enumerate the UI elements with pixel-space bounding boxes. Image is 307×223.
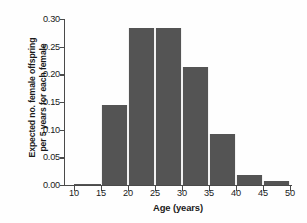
bar-25-30 (155, 28, 182, 185)
x-tick-label: 20 (115, 188, 141, 198)
y-tick-mark (60, 102, 65, 103)
x-tick-label: 35 (196, 188, 222, 198)
bar-10-15 (74, 184, 101, 185)
y-tick-label: 0.05 (32, 153, 60, 162)
y-axis-tick-labels: 0.30 0.25 0.20 0.15 0.10 0.05 0.00 (30, 0, 60, 223)
y-tick-mark (60, 74, 65, 75)
y-axis-title: Expected no. female offspring per 5 year… (0, 0, 30, 195)
y-tick-mark (60, 157, 65, 158)
y-tick-label: 0.20 (32, 70, 60, 79)
y-tick-label: 0.00 (32, 181, 60, 190)
bar-40-45 (236, 175, 263, 186)
y-tick-label: 0.30 (32, 15, 60, 24)
x-axis-title: Age (years) (64, 202, 292, 213)
bar-45-50 (263, 181, 290, 185)
bar-30-35 (182, 67, 209, 185)
y-tick-mark (60, 19, 65, 20)
x-tick-label: 25 (142, 188, 168, 198)
figure: Expected no. female offspring per 5 year… (0, 0, 307, 223)
x-tick-label: 30 (169, 188, 195, 198)
bar-20-25 (128, 28, 155, 185)
plot-area (64, 19, 292, 185)
y-tick-mark (60, 47, 65, 48)
y-tick-label: 0.10 (32, 126, 60, 135)
x-tick-label: 15 (88, 188, 114, 198)
bar-15-20 (101, 105, 128, 185)
bar-35-40 (209, 134, 236, 185)
y-tick-mark (60, 185, 65, 186)
x-tick-label: 45 (250, 188, 276, 198)
x-tick-label: 40 (223, 188, 249, 198)
y-tick-label: 0.15 (32, 98, 60, 107)
x-tick-label: 10 (61, 188, 87, 198)
y-tick-label: 0.25 (32, 43, 60, 52)
y-tick-mark (60, 130, 65, 131)
x-axis-line (64, 185, 292, 186)
x-tick-label: 50 (277, 188, 303, 198)
